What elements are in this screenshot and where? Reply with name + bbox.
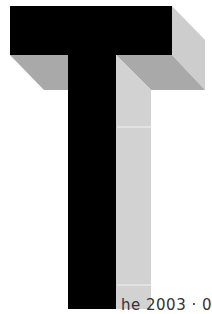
stem-front-face xyxy=(68,55,116,309)
left-arm-underside-face xyxy=(10,55,68,90)
stem-side-face xyxy=(116,55,151,309)
caption-text: he 2003 · 0 xyxy=(121,297,212,313)
top-bar-front-face xyxy=(10,6,172,55)
